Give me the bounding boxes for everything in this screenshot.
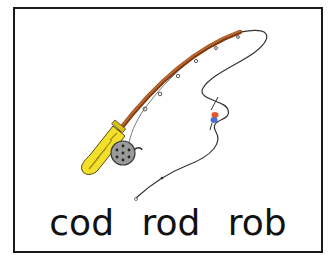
reel <box>111 141 142 165</box>
word-cod: cod <box>49 203 114 243</box>
rod-guides <box>143 36 239 111</box>
fishing-line <box>136 30 267 198</box>
word-list: cod rod rob <box>13 203 323 243</box>
word-rob: rob <box>228 203 287 243</box>
rod-shaft <box>118 32 240 132</box>
word-rod: rod <box>141 203 200 243</box>
